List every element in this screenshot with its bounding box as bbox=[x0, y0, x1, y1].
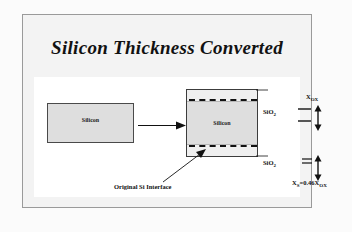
diagram-panel: Silicon Silicon SiO2 SiO2 bbox=[34, 77, 300, 197]
xox-dimension-arrow-icon bbox=[298, 105, 332, 131]
silicon-block-after-label: Silicon bbox=[187, 120, 257, 126]
page-title: Silicon Thickness Converted bbox=[23, 37, 311, 59]
silicon-block-before-label: Silicon bbox=[48, 117, 133, 123]
silicon-block-after: Silicon bbox=[186, 89, 258, 157]
caption-leader-line bbox=[162, 149, 206, 183]
slide-canvas: Silicon Thickness Converted Silicon Sili… bbox=[0, 0, 352, 232]
original-interface-caption: Original Si Interface bbox=[114, 183, 171, 190]
original-interface-line-bottom bbox=[189, 145, 257, 147]
oxide-label-top: SiO2 bbox=[263, 108, 276, 117]
silicon-block-before: Silicon bbox=[47, 103, 134, 143]
original-interface-line-top bbox=[189, 99, 257, 101]
xs-dimension-arrow-icon bbox=[298, 155, 332, 181]
xox-label: XOX bbox=[306, 93, 318, 102]
slide-frame: Silicon Thickness Converted Silicon Sili… bbox=[22, 14, 312, 208]
oxide-leader-lines bbox=[256, 89, 268, 161]
conversion-arrow-icon bbox=[138, 121, 186, 130]
xs-equation-label: XS=0.46XOX bbox=[292, 179, 327, 188]
thickness-measurements: XOX XS=0.46XOX bbox=[292, 93, 350, 193]
oxide-label-bottom: SiO2 bbox=[263, 159, 276, 168]
